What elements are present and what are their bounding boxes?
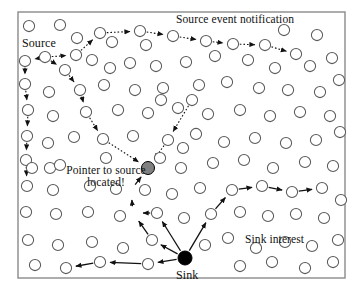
sensor-node [234,260,245,271]
sensor-node [162,134,173,145]
sensor-node [316,182,327,193]
sensor-node [86,236,97,247]
sensor-node [269,62,280,73]
sensor-node [86,54,97,65]
sensor-node [259,39,270,50]
sensor-node [124,57,135,68]
sensor-node [234,104,245,115]
sensor-node [262,210,273,221]
sensor-node [166,188,177,199]
sensor-node [327,160,338,171]
sensor-node [146,234,157,245]
sensor-node [39,51,50,62]
sensor-node [22,104,33,115]
sensor-node [299,262,310,273]
sensor-node [290,48,301,59]
sensor-node [278,24,289,35]
sensor-node [266,256,277,267]
sensor-node [94,256,105,267]
sensor-node [202,108,213,119]
sensor-node [80,106,91,117]
sensor-node [334,126,345,137]
sensor-node [242,54,253,65]
sensor-node [256,180,267,191]
sensor-node [299,156,310,167]
sensor-node [100,152,111,163]
sensor-node [218,136,229,147]
sensor-node [19,78,30,89]
sensor-node [178,212,189,223]
sensor-node [117,242,128,253]
sensor-node [94,27,105,38]
sensor-node [194,182,205,193]
sensor-node [221,76,232,87]
sensor-node [22,234,33,245]
sensor-node [282,84,293,95]
sensor-node [26,162,37,173]
sensor-node [175,162,186,173]
sensor-node [23,20,34,31]
sensor-node [42,137,53,148]
sensor-node [82,206,93,217]
sensor-node [129,84,140,95]
sensor-node [59,64,70,75]
sensor-node [43,86,54,97]
sensor-node [47,184,58,195]
sensor-node [106,36,117,47]
sensor-node [167,30,178,41]
sensor-node [264,110,275,121]
sensor-node [294,106,305,117]
sensor-node [326,52,337,63]
sensor-node [335,194,346,205]
sensor-node [20,206,31,217]
sensor-node [154,152,165,163]
sensor-node [306,240,317,251]
label-sink-interest: Sink interest [245,233,304,245]
sensor-node [177,142,188,153]
sensor-node [150,60,161,71]
sensor-node [50,208,61,219]
sensor-node [222,232,233,243]
sensor-node [97,133,108,144]
sensor-node [142,107,153,118]
sensor-node [227,38,238,49]
label-sink: Sink [176,269,198,282]
sensor-node [157,82,168,93]
sensor-node [267,162,278,173]
sensor-node [155,94,166,105]
sensor-node [21,180,32,191]
sensor-node [304,60,315,71]
sensor-node [74,84,85,95]
sensor-node [318,212,329,223]
sensor-node [199,239,210,250]
sensor-node [47,110,58,121]
sensor-node [112,104,123,115]
sensor-node [193,79,204,90]
sensor-node [238,154,249,165]
sensor-node [172,102,183,113]
sensor-node [60,262,71,273]
sensor-node [311,29,322,40]
sensor-node [310,134,321,145]
sensor-node [21,130,32,141]
sensor-node [70,49,81,60]
sensor-node [104,62,115,73]
sensor-node [209,50,220,61]
label-source-event-notification: Source event notification [176,13,294,25]
figure-root: Source event notification Source Pointer… [0,0,363,295]
sensor-node [205,208,216,219]
sensor-node [207,157,218,168]
sensor-node [151,207,162,218]
edge-segment [132,200,133,206]
sensor-node [249,132,260,143]
sensor-node [280,137,291,148]
sensor-node [140,39,151,50]
sensor-node [186,94,197,105]
sensor-node [71,32,82,43]
sensor-node [29,259,40,270]
sensor-node [68,131,79,142]
sensor-node [54,19,65,30]
sensor-node [127,130,138,141]
sensor-node [190,128,201,139]
sensor-node [286,186,297,197]
